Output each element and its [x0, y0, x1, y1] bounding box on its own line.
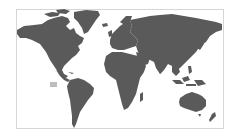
north-america — [17, 16, 84, 78]
pacific-marker — [50, 82, 57, 87]
greenland — [74, 10, 100, 34]
world-map — [0, 0, 239, 139]
south-america — [67, 78, 94, 128]
australia — [179, 92, 206, 112]
new-zealand — [209, 112, 216, 122]
